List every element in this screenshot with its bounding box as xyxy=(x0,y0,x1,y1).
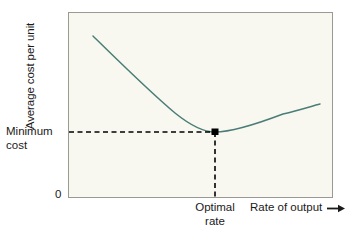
minimum-cost-label: Minimum cost xyxy=(6,125,64,152)
x-axis-label: Rate of output xyxy=(250,201,345,214)
optimal-rate-label: Optimal rate xyxy=(186,201,244,228)
minimum-cost-label-line1: Minimum xyxy=(6,125,64,139)
origin-label: 0 xyxy=(55,188,61,200)
plot-area xyxy=(68,12,333,198)
optimal-rate-label-line2: rate xyxy=(186,215,244,229)
arrow-right-icon xyxy=(327,203,345,212)
x-axis-label-text: Rate of output xyxy=(250,201,322,214)
optimal-rate-label-line1: Optimal xyxy=(186,201,244,215)
minimum-cost-label-line2: cost xyxy=(6,139,64,153)
cost-curve-figure: Average cost per unit 0 Minimum cost Opt… xyxy=(0,0,350,236)
